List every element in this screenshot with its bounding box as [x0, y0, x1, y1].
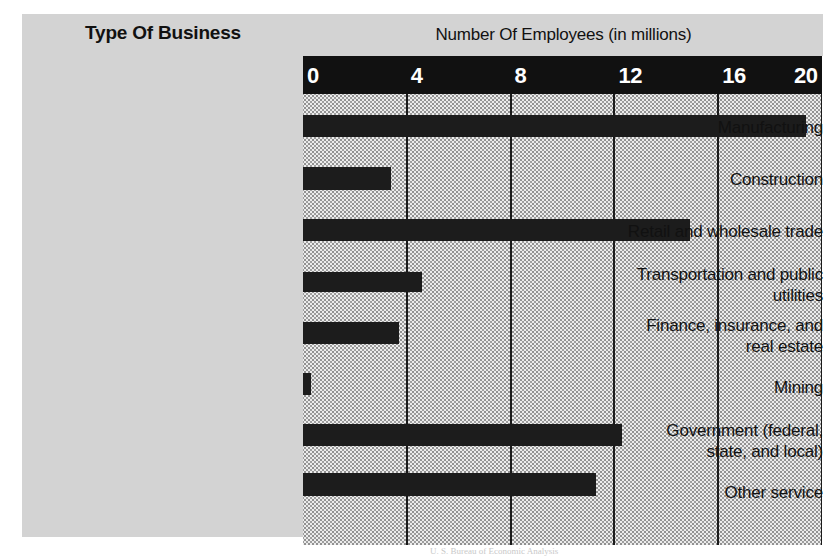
bar-4 — [303, 322, 399, 344]
x-axis-scale-bar: 048121620 — [303, 56, 822, 94]
category-label-1: Construction — [549, 169, 837, 190]
category-label-7: Other service — [549, 482, 837, 503]
x-axis-tick-label-0: 0 — [307, 56, 319, 94]
chart-left-title: Type Of Business — [22, 22, 304, 44]
category-label-line: Mining — [549, 377, 823, 398]
x-axis-tick-label-16: 16 — [722, 56, 745, 94]
category-label-4: Finance, insurance, andreal estate — [549, 315, 837, 357]
category-label-line: real estate — [549, 336, 823, 357]
x-axis-tick-label-8: 8 — [515, 56, 527, 94]
left-label-panel — [22, 14, 304, 537]
chart-right-title: Number Of Employees (in millions) — [304, 25, 823, 45]
category-label-line: Government (federal, — [549, 420, 823, 441]
x-axis-tick-label-20: 20 — [794, 56, 817, 94]
category-label-line: Construction — [549, 169, 823, 190]
category-label-line: Transportation and public — [549, 264, 823, 285]
bar-3 — [303, 272, 422, 292]
x-axis-tick-label-4: 4 — [411, 56, 423, 94]
category-label-line: Finance, insurance, and — [549, 315, 823, 336]
bar-5 — [303, 373, 311, 395]
category-label-line: state, and local) — [549, 441, 823, 462]
chart-figure: Type Of Business Number Of Employees (in… — [0, 0, 837, 557]
category-label-line: Retail and wholesale trade — [549, 221, 823, 242]
bar-1 — [303, 167, 391, 190]
x-axis-tick-label-12: 12 — [618, 56, 641, 94]
category-label-3: Transportation and publicutilities — [549, 264, 837, 306]
category-label-5: Mining — [549, 377, 837, 398]
category-label-0: Manufacturing — [549, 117, 837, 138]
source-note: U. S. Bureau of Economic Analysis — [430, 546, 830, 557]
category-label-line: Other service — [549, 482, 823, 503]
category-label-line: utilities — [549, 285, 823, 306]
category-label-2: Retail and wholesale trade — [549, 221, 837, 242]
category-label-6: Government (federal,state, and local) — [549, 420, 837, 462]
category-label-line: Manufacturing — [549, 117, 823, 138]
